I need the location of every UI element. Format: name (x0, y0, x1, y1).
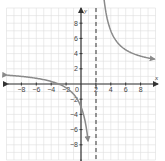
y-tick-label: 4 (74, 50, 78, 57)
y-tick-label: 2 (74, 65, 78, 72)
x-tick-label: 8 (139, 86, 143, 93)
y-tick-label: −8 (70, 141, 78, 148)
right-branch-curve (104, 0, 155, 59)
x-axis-label: x (154, 74, 159, 82)
y-tick-label: 8 (74, 20, 78, 27)
x-tick-label: 4 (109, 86, 113, 93)
y-tick-label: −6 (70, 126, 78, 133)
origin-label: 0 (75, 86, 79, 93)
y-tick-label: −4 (70, 111, 78, 118)
function-graph: −8−6−4−224688642−2−4−6−8 x y 0 (0, 0, 165, 161)
x-tick-label: 2 (94, 86, 98, 93)
x-tick-label: −4 (47, 86, 55, 93)
x-tick-label: −6 (32, 86, 40, 93)
x-tick-label: −8 (17, 86, 25, 93)
y-tick-label: 6 (74, 35, 78, 42)
x-tick-label: 6 (124, 86, 128, 93)
